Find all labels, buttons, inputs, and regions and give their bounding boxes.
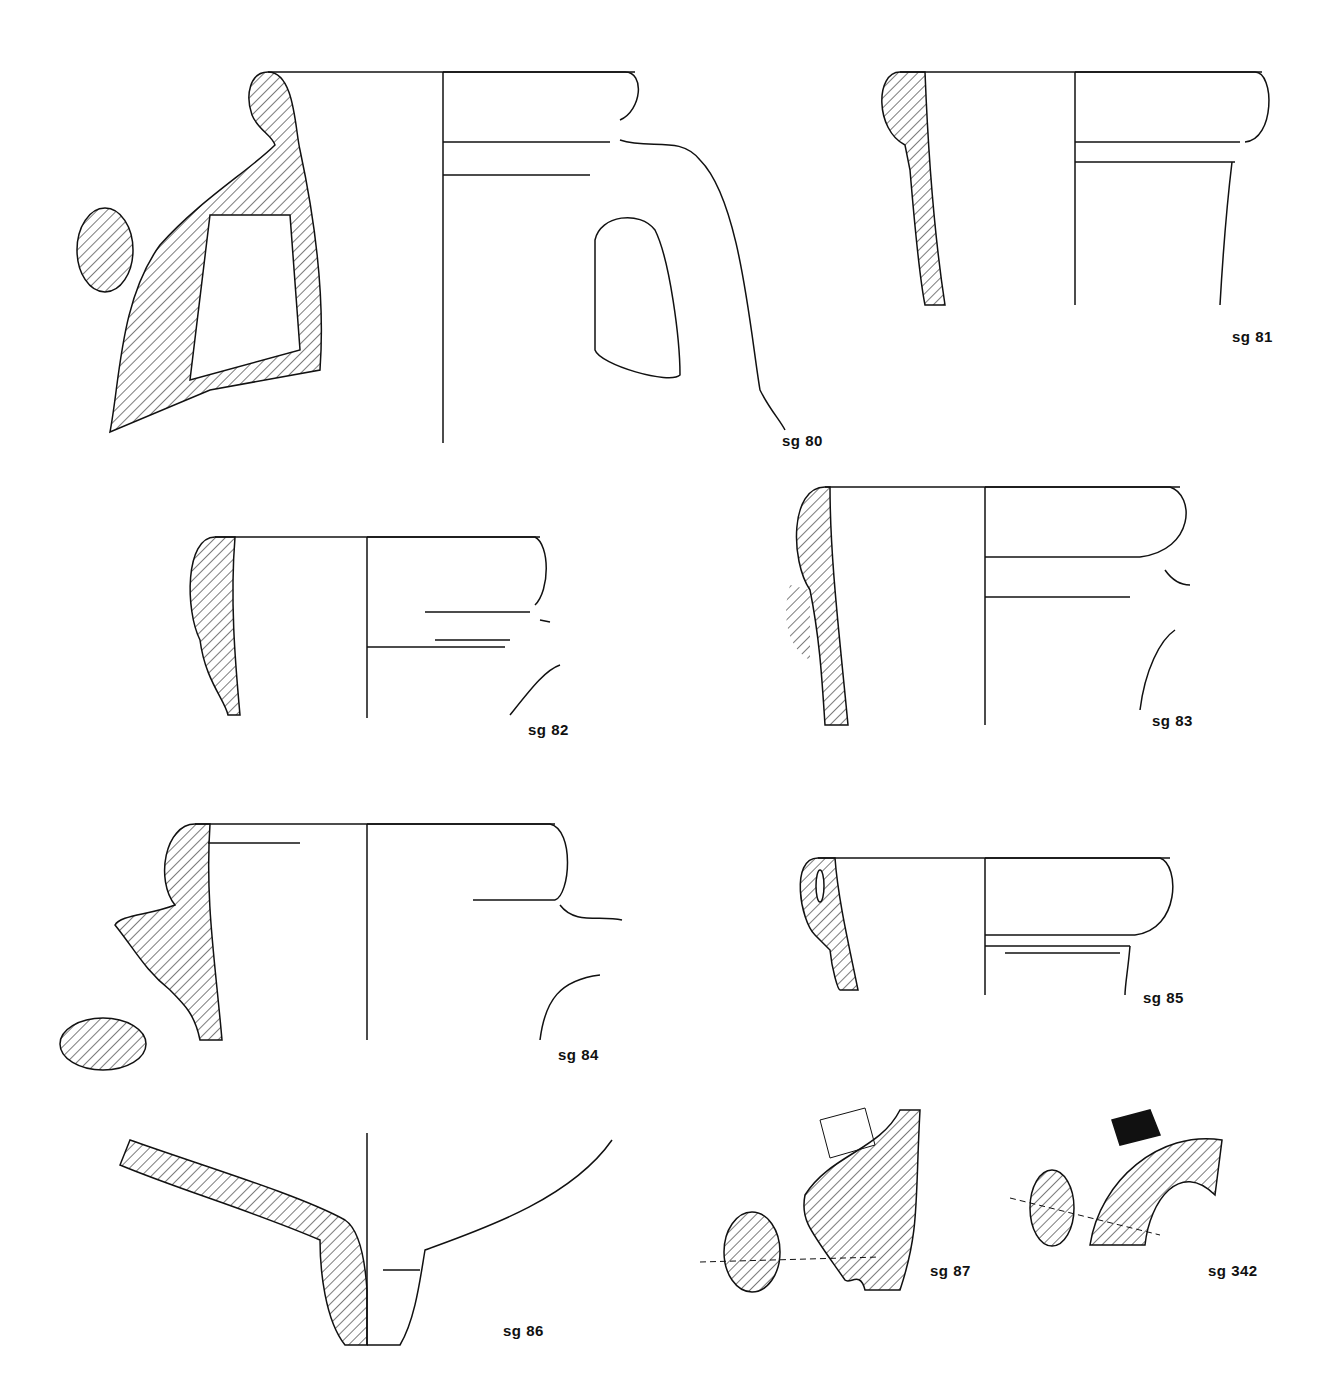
label-sg86: sg 86 [503, 1322, 544, 1339]
pottery-plate: sg 80 sg 81 sg 82 sg 83 sg 84 sg 85 sg 8… [0, 0, 1343, 1400]
label-sg85: sg 85 [1143, 989, 1184, 1006]
label-sg83: sg 83 [1152, 712, 1193, 729]
figure-sg84 [60, 824, 622, 1070]
figure-sg86 [120, 1133, 612, 1345]
label-sg80: sg 80 [782, 432, 823, 449]
label-sg84: sg 84 [558, 1046, 599, 1063]
figure-sg82 [190, 537, 560, 718]
label-sg342: sg 342 [1208, 1262, 1258, 1279]
figure-sg85 [800, 858, 1173, 995]
label-sg82: sg 82 [528, 721, 569, 738]
figure-sg342 [1010, 1110, 1222, 1246]
label-sg87: sg 87 [930, 1262, 971, 1279]
figure-sg87 [700, 1108, 920, 1292]
figure-sg83 [786, 487, 1190, 725]
drawings [0, 0, 1343, 1400]
figure-sg80 [77, 72, 785, 443]
label-sg81: sg 81 [1232, 328, 1273, 345]
figure-sg81 [882, 72, 1269, 305]
